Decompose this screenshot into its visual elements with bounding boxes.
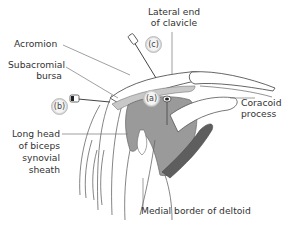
label-lateral-clavicle-line2: of clavicle bbox=[140, 17, 208, 29]
marker-b: (b) bbox=[51, 98, 68, 115]
marker-c: (c) bbox=[145, 36, 162, 53]
marker-a: (a) bbox=[143, 90, 160, 107]
clavicle-shape bbox=[189, 72, 275, 91]
label-biceps-line3: synovial bbox=[0, 152, 60, 164]
label-biceps-line2: of biceps bbox=[0, 140, 60, 152]
label-biceps-line1: Long head bbox=[0, 128, 60, 140]
label-subacromial-bursa-line2: bursa bbox=[8, 70, 62, 82]
label-medial-deltoid: Medial border of deltoid bbox=[141, 205, 251, 217]
label-coracoid-line2: process bbox=[241, 108, 276, 120]
arm-outlines bbox=[80, 95, 130, 220]
needle-b bbox=[70, 95, 110, 102]
shoulder-diagram: Acromion Subacromial bursa Lateral end o… bbox=[0, 0, 291, 232]
label-biceps-line4: sheath bbox=[0, 164, 60, 176]
label-acromion: Acromion bbox=[14, 38, 57, 50]
